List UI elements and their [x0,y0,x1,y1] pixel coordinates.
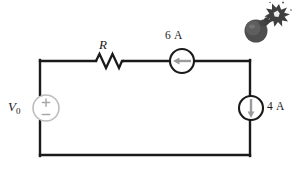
current-source-6a-label: 6 A [165,30,183,42]
circuit-schematic [0,0,303,177]
circuit-diagram-figure: R 6 A 4 A V0 [0,0,303,177]
current-source-6a-symbol [170,49,194,73]
resistor-symbol [96,54,124,68]
current-source-4a-label: 4 A [267,101,285,113]
voltage-source-symbol [33,95,59,121]
voltage-source-label-symbol: V [8,99,16,114]
circuit-wires [40,60,250,156]
resistor-label: R [99,38,107,51]
bomb-icon [245,2,292,43]
voltage-source-label: V0 [8,100,20,116]
resistor-zigzag [96,54,124,68]
current-source-4a-symbol [239,96,263,120]
bomb-highlight [249,24,255,28]
voltage-source-label-subscript: 0 [16,106,21,116]
